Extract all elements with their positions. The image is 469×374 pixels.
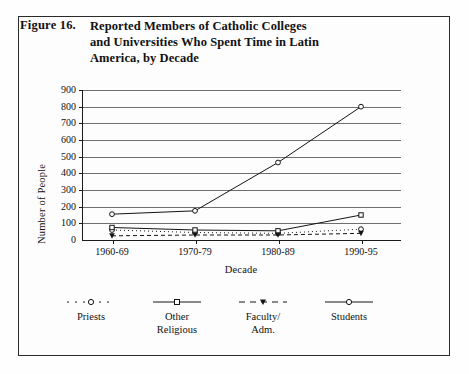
y-tick-800: 800: [61, 102, 76, 112]
series-faculty-adm-: [109, 231, 364, 239]
series-other-religious: [110, 213, 363, 233]
y-axis-label: Number of People: [34, 136, 48, 246]
legend-label: Priests: [48, 311, 134, 324]
x-tick-1990-95: 1990-95: [344, 246, 377, 257]
x-tick-1960-69: 1960-69: [95, 246, 128, 257]
legend-label-line-2: Adm.: [220, 324, 306, 337]
data-point: [110, 225, 114, 229]
figure-title-line-3: America, by Decade: [90, 50, 319, 66]
legend-item-priests: Priests: [48, 296, 134, 324]
x-tick-1980-89: 1980-89: [261, 246, 294, 257]
y-tick-900: 900: [61, 85, 76, 95]
y-tick-700: 700: [61, 118, 76, 128]
y-tick-400: 400: [61, 168, 76, 178]
data-point: [110, 212, 115, 217]
figure-page: Figure 16. Reported Members of Catholic …: [0, 0, 469, 374]
figure-number: Figure 16.: [20, 18, 90, 33]
y-tick-500: 500: [61, 152, 76, 162]
y-tick-600: 600: [61, 135, 76, 145]
data-point: [359, 213, 363, 217]
data-point: [193, 228, 197, 232]
legend-swatch: [134, 296, 220, 308]
legend-item-other: OtherReligious: [134, 296, 220, 336]
x-axis-tick-labels: 1960-691970-791980-891990-95: [82, 246, 400, 260]
figure-title-line-1: Reported Members of Catholic Colleges: [90, 18, 319, 34]
chart-plot-area: Number of People 01002003004005006007008…: [34, 90, 414, 280]
figure-title-line-2: and Universities Who Spent Time in Latin: [90, 34, 319, 50]
legend-item-students: Students: [306, 296, 392, 324]
figure-title: Reported Members of Catholic Colleges an…: [90, 18, 319, 66]
legend-label-line-2: Religious: [134, 324, 220, 337]
x-axis-label: Decade: [82, 264, 400, 275]
y-axis-label-text: Number of People: [36, 164, 47, 244]
legend-label: Other: [134, 311, 220, 324]
y-tick-200: 200: [61, 202, 76, 212]
legend-item-faculty-: Faculty/Adm.: [220, 296, 306, 336]
legend-swatch: [48, 296, 134, 308]
data-point: [276, 160, 281, 165]
y-tick-0: 0: [71, 235, 76, 245]
y-tick-100: 100: [61, 218, 76, 228]
y-axis-tick-labels: 0100200300400500600700800900: [48, 90, 78, 240]
data-point: [193, 208, 198, 213]
legend-label: Students: [306, 311, 392, 324]
series-students: [110, 104, 364, 216]
data-point: [359, 104, 364, 109]
legend-swatch: [220, 296, 306, 308]
chart-series-layer: [82, 90, 400, 241]
x-tick-1970-79: 1970-79: [178, 246, 211, 257]
chart-legend: PriestsOtherReligiousFaculty/Adm.Student…: [48, 296, 396, 348]
legend-swatch: [306, 296, 392, 308]
legend-label: Faculty/: [220, 311, 306, 324]
figure-title-block: Figure 16. Reported Members of Catholic …: [20, 18, 412, 66]
data-point: [276, 229, 280, 233]
y-tick-300: 300: [61, 185, 76, 195]
